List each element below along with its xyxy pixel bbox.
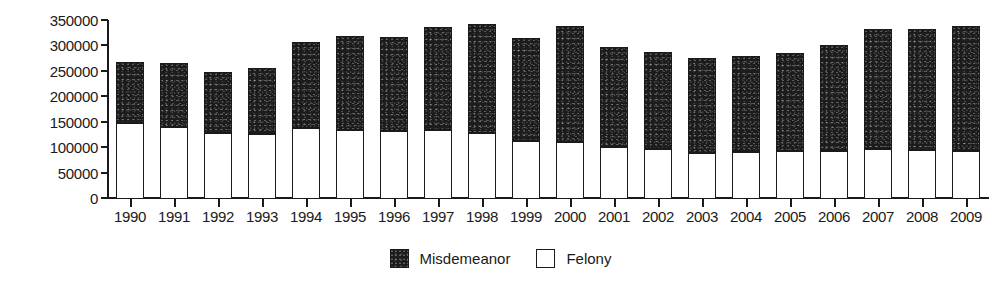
bar-group [380,20,408,198]
bar-segment-misdemeanor [248,68,276,134]
x-axis-tick-label: 2001 [591,208,637,225]
x-axis-tick-label: 1995 [327,208,373,225]
bar-segment-felony [380,131,408,198]
x-axis-tick [878,199,880,207]
legend-item-misdemeanor: Misdemeanor [390,249,511,268]
x-axis-tick-label: 1991 [151,208,197,225]
y-axis-tick [101,146,108,148]
y-axis-tick [101,172,108,174]
x-axis-tick [966,199,968,207]
bar-segment-misdemeanor [908,29,936,150]
x-axis-tick-label: 1993 [239,208,285,225]
bar-segment-felony [644,149,672,198]
y-axis-tick [101,121,108,123]
bar-segment-misdemeanor [732,56,760,152]
bar-segment-felony [116,123,144,198]
x-axis-tick [790,199,792,207]
bar-group [292,20,320,198]
bar-segment-felony [468,133,496,198]
plot-area [108,20,988,198]
x-axis-tick-label: 2008 [899,208,945,225]
x-axis-tick [922,199,924,207]
x-axis-tick [570,199,572,207]
x-axis-tick [702,199,704,207]
bar-group [952,20,980,198]
bar-group [160,20,188,198]
bar-group [732,20,760,198]
y-axis-tick-label: 200000 [50,88,98,105]
bar-segment-misdemeanor [512,38,540,140]
bar-group [336,20,364,198]
bar-segment-misdemeanor [380,37,408,131]
y-axis-tick-label: 250000 [50,62,98,79]
x-axis-tick-label: 1996 [371,208,417,225]
x-axis-tick-label: 1994 [283,208,329,225]
x-axis-tick [174,199,176,207]
bar-segment-felony [952,151,980,198]
bar-group [556,20,584,198]
bar-group [644,20,672,198]
bar-group [600,20,628,198]
bar-segment-misdemeanor [600,47,628,147]
x-axis-tick [526,199,528,207]
bar-segment-felony [908,150,936,198]
x-axis-tick [218,199,220,207]
x-axis-tick-label: 2003 [679,208,725,225]
legend-label-felony: Felony [566,250,611,267]
bar-segment-misdemeanor [336,36,364,131]
bar-segment-misdemeanor [776,53,804,152]
bar-segment-misdemeanor [204,72,232,133]
x-axis-tick-label: 2009 [943,208,989,225]
y-axis-tick-label: 50000 [58,164,98,181]
y-axis-tick [101,70,108,72]
x-axis-tick-label: 2005 [767,208,813,225]
bar-segment-felony [732,152,760,198]
x-axis-tick [658,199,660,207]
bar-segment-felony [160,127,188,198]
bar-segment-felony [424,130,452,198]
x-axis-tick-label: 2000 [547,208,593,225]
y-axis-tick-label: 100000 [50,139,98,156]
bar-segment-misdemeanor [952,26,980,151]
bar-segment-felony [864,149,892,198]
legend-swatch-misdemeanor-icon [390,249,409,268]
y-axis-tick-label: 0 [90,190,98,207]
x-axis-tick-label: 2002 [635,208,681,225]
bar-segment-misdemeanor [864,29,892,149]
x-axis-tick [746,199,748,207]
y-axis-tick-label: 300000 [50,37,98,54]
stacked-bar-chart: 3500003000002500002000001500001000005000… [0,0,1001,290]
bar-segment-felony [512,141,540,198]
bar-group [116,20,144,198]
bar-segment-felony [204,133,232,198]
bar-group [204,20,232,198]
y-axis-tick-label: 350000 [50,12,98,29]
chart-legend: Misdemeanor Felony [0,249,1001,268]
bar-segment-felony [336,130,364,198]
bar-segment-felony [688,153,716,198]
bar-segment-felony [776,151,804,198]
bar-group [864,20,892,198]
bar-group [908,20,936,198]
x-axis-tick [438,199,440,207]
legend-item-felony: Felony [536,249,611,268]
legend-label-misdemeanor: Misdemeanor [420,250,511,267]
x-axis-tick-label: 1998 [459,208,505,225]
legend-swatch-felony-icon [536,249,555,268]
bar-segment-misdemeanor [424,27,452,130]
x-axis-tick [834,199,836,207]
bar-group [248,20,276,198]
bar-group [820,20,848,198]
x-axis-tick-label: 1992 [195,208,241,225]
bar-segment-felony [556,142,584,198]
x-axis-tick [306,199,308,207]
bar-segment-misdemeanor [468,24,496,133]
bar-segment-misdemeanor [292,42,320,128]
x-axis-tick [482,199,484,207]
x-axis-tick-label: 2007 [855,208,901,225]
y-axis-tick [101,44,108,46]
y-axis-tick [101,19,108,21]
x-axis-tick-label: 2004 [723,208,769,225]
bar-segment-misdemeanor [820,45,848,151]
bar-group [688,20,716,198]
